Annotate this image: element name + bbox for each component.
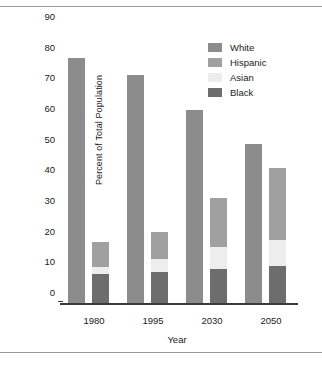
bar-white — [68, 58, 85, 303]
x-axis-line — [60, 303, 298, 305]
legend-item: Asian — [208, 71, 266, 84]
bar-segment-asian — [151, 259, 168, 272]
y-axis-tick-label: 0 — [50, 287, 55, 298]
bar-stack-minorities — [151, 232, 168, 303]
bar-stack-minorities — [210, 198, 227, 303]
x-axis-title: Year — [63, 334, 291, 345]
bar-segment-black — [92, 274, 109, 303]
y-axis-tick-label: 80 — [44, 41, 55, 52]
legend-item: Black — [208, 86, 266, 99]
chart-legend: WhiteHispanicAsianBlack — [208, 41, 266, 101]
x-axis-tick-label: 2050 — [241, 315, 301, 326]
legend-label: Black — [230, 88, 253, 98]
legend-item: Hispanic — [208, 56, 266, 69]
y-axis-tick-label: 40 — [44, 164, 55, 175]
top-divider — [0, 6, 322, 7]
legend-label: Asian — [230, 73, 254, 83]
bar-stack-minorities — [269, 168, 286, 303]
y-axis-tick-label: 30 — [44, 195, 55, 206]
chart-figure: Percent of Total Population 010203040506… — [0, 0, 322, 366]
bar-segment-hispanic — [151, 232, 168, 260]
y-axis-zero-tick — [58, 301, 63, 302]
y-axis-tick-label: 50 — [44, 133, 55, 144]
x-axis-tick-label: 2030 — [182, 315, 242, 326]
bar-white — [245, 144, 262, 303]
y-axis-tick-label: 20 — [44, 225, 55, 236]
bar-segment-asian — [269, 240, 286, 266]
y-axis-tick-label: 10 — [44, 256, 55, 267]
bar-segment-hispanic — [210, 198, 227, 247]
bar-stack-minorities — [92, 242, 109, 303]
y-axis-tick-label: 60 — [44, 103, 55, 114]
x-axis-tick-label: 1995 — [123, 315, 183, 326]
y-axis-tick-label: 90 — [44, 11, 55, 22]
y-axis-tick-label: 70 — [44, 72, 55, 83]
bar-segment-asian — [92, 267, 109, 274]
bar-segment-asian — [210, 247, 227, 268]
legend-swatch-icon — [208, 43, 222, 52]
legend-label: Hispanic — [230, 58, 266, 68]
bar-segment-black — [210, 269, 227, 303]
bar-segment-hispanic — [92, 242, 109, 267]
bar-segment-black — [151, 272, 168, 303]
bar-white — [186, 110, 203, 303]
bar-white — [127, 75, 144, 303]
y-axis-title: Percent of Total Population — [94, 50, 104, 210]
legend-swatch-icon — [208, 58, 222, 67]
x-axis-tick-label: 1980 — [64, 315, 124, 326]
bottom-divider — [0, 352, 322, 353]
legend-label: White — [230, 43, 254, 53]
bar-segment-black — [269, 266, 286, 303]
legend-swatch-icon — [208, 73, 222, 82]
legend-item: White — [208, 41, 266, 54]
bar-segment-hispanic — [269, 168, 286, 240]
legend-swatch-icon — [208, 88, 222, 97]
